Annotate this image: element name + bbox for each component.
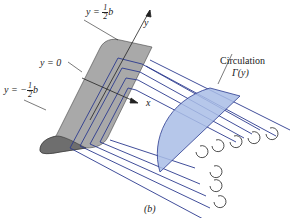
label-y-zero: y = 0 bbox=[40, 58, 61, 68]
lifting-line-diagram: y = 12b y = 0 y = −12b y x Circulation Γ… bbox=[0, 0, 291, 218]
rotation-arrows bbox=[196, 128, 278, 208]
label-y-top: y = 12b bbox=[86, 4, 113, 21]
circulation-distribution bbox=[157, 88, 240, 172]
caption: (b) bbox=[144, 204, 156, 214]
label-circulation: Circulation bbox=[220, 56, 265, 66]
diagram-graphics bbox=[0, 0, 291, 218]
label-y-bottom: y = −12b bbox=[4, 82, 38, 99]
label-x-axis: x bbox=[146, 98, 150, 108]
label-y-axis: y bbox=[144, 18, 148, 28]
label-gamma: Γ(y) bbox=[232, 68, 249, 78]
